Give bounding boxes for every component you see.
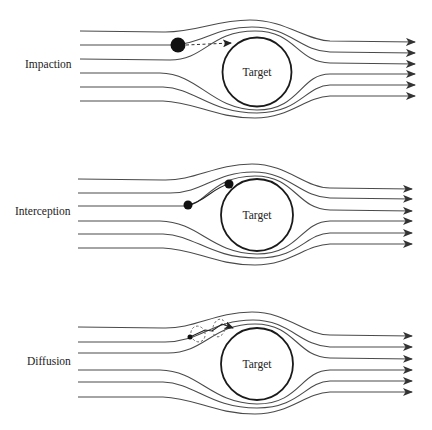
label-interception: Interception <box>15 205 71 217</box>
label-diffusion: Diffusion <box>27 355 71 367</box>
small-particle <box>188 335 193 340</box>
target-label: Target <box>243 209 272 221</box>
impaction-trajectory-arrow <box>186 43 231 45</box>
particle-start <box>184 201 193 210</box>
target-label: Target <box>243 358 272 370</box>
label-impaction: Impaction <box>25 58 72 70</box>
large-particle <box>171 38 186 53</box>
particle-intercepted <box>225 180 234 189</box>
target-label: Target <box>243 66 272 78</box>
